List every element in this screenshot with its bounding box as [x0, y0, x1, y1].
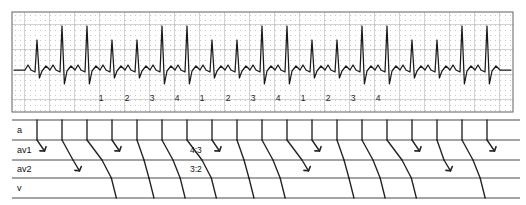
ventricular-activation-line: [149, 178, 154, 198]
av1-conduction-line: [437, 140, 444, 160]
av1-blocked-conduction: [312, 140, 320, 151]
ladder-tier-label-a: a: [17, 125, 22, 135]
ladder-ratio-annotation: 3:2: [190, 164, 202, 174]
av1-blocked-conduction: [112, 140, 120, 151]
figure-root: 123412341234 aav1av2v 4:33:2: [0, 0, 526, 205]
ventricular-activation-line: [411, 178, 416, 198]
av1-conduction-line: [262, 140, 273, 160]
ecg-beat-number: 3: [150, 93, 155, 103]
ventricular-activation-line: [180, 178, 185, 198]
ecg-beat-number: 4: [276, 93, 281, 103]
ladder-tier-label-av2: av2: [17, 164, 32, 174]
av2-conduction-line: [173, 160, 180, 178]
ecg-beat-number: 1: [99, 93, 104, 103]
av2-conduction-line: [202, 160, 211, 178]
av2-conduction-line: [344, 160, 349, 178]
ecg-beat-number: 4: [175, 93, 180, 103]
av2-conduction-line: [373, 160, 380, 178]
av2-blocked-conduction: [302, 160, 309, 171]
av2-conduction-line: [473, 160, 480, 178]
ecg-beat-number: 2: [125, 93, 130, 103]
ladder-conduction-lines: [37, 120, 495, 198]
av2-conduction-line: [402, 160, 411, 178]
av1-conduction-line: [87, 140, 102, 160]
ecg-beat-number: 1: [301, 93, 306, 103]
ecg-beat-number: 1: [200, 93, 205, 103]
av1-blocked-conduction: [487, 140, 495, 151]
av2-blocked-conduction: [73, 160, 80, 171]
av2-conduction-line: [144, 160, 149, 178]
ladder-ratio-annotation: 4:3: [190, 145, 202, 155]
av1-conduction-line: [337, 140, 344, 160]
ventricular-activation-line: [111, 178, 116, 198]
ecg-beat-number: 2: [226, 93, 231, 103]
ventricular-activation-line: [480, 178, 485, 198]
ecg-rhythm-strip: 123412341234: [0, 0, 526, 120]
av1-blocked-conduction: [412, 140, 420, 151]
ladder-tier-labels: aav1av2v: [17, 125, 32, 193]
av2-blocked-conduction: [444, 160, 451, 171]
av1-conduction-line: [237, 140, 244, 160]
av2-conduction-line: [244, 160, 249, 178]
ecg-beat-number: 3: [251, 93, 256, 103]
ventricular-activation-line: [211, 178, 216, 198]
ventricular-activation-line: [280, 178, 285, 198]
av2-conduction-line: [102, 160, 111, 178]
av1-conduction-line: [387, 140, 402, 160]
av1-blocked-conduction: [37, 140, 45, 151]
av1-conduction-line: [137, 140, 144, 160]
av1-conduction-line: [362, 140, 373, 160]
av2-conduction-line: [273, 160, 280, 178]
av1-conduction-line: [462, 140, 473, 160]
ventricular-activation-line: [349, 178, 354, 198]
av1-conduction-line: [162, 140, 173, 160]
ecg-beat-number: 4: [376, 93, 381, 103]
av1-blocked-conduction: [212, 140, 220, 151]
av1-conduction-line: [62, 140, 73, 160]
ventricular-activation-line: [249, 178, 254, 198]
ecg-beat-number: 2: [326, 93, 331, 103]
ecg-beat-number: 3: [351, 93, 356, 103]
ladder-tier-label-av1: av1: [17, 145, 32, 155]
ladder-diagram: aav1av2v 4:33:2: [0, 115, 526, 205]
ventricular-activation-line: [380, 178, 385, 198]
av1-conduction-line: [287, 140, 302, 160]
ladder-tier-label-v: v: [17, 183, 22, 193]
